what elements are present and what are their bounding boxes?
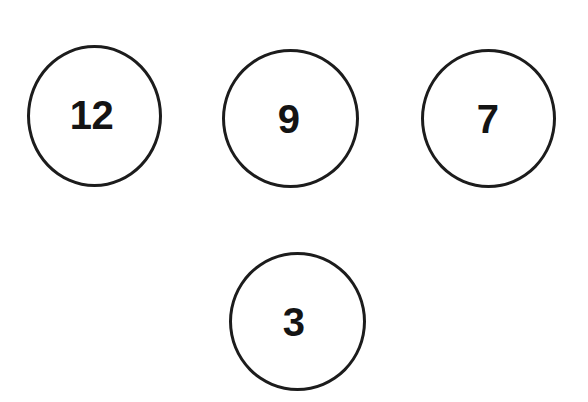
number-circle-3[interactable]: 3	[229, 252, 366, 391]
circle-label-7: 7	[477, 99, 499, 139]
circle-label-12: 12	[70, 95, 114, 135]
diagram-canvas: 12 9 7 3	[0, 0, 588, 402]
number-circle-7[interactable]: 7	[421, 49, 556, 188]
number-circle-12[interactable]: 12	[27, 45, 162, 187]
circle-label-9: 9	[278, 99, 300, 139]
number-circle-9[interactable]: 9	[222, 49, 359, 188]
circle-label-3: 3	[283, 302, 305, 342]
